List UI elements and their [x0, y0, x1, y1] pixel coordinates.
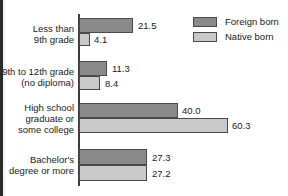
bar-value-foreign-bachelors: 27.3 [152, 152, 171, 163]
category-label-high-school: High school graduate or some college [0, 102, 74, 135]
bar-native-high-school[interactable] [79, 118, 228, 133]
bar-value-native-less-than-9th: 4.1 [94, 34, 107, 45]
legend-label-foreign-born: Foreign born [225, 16, 279, 28]
bar-foreign-bachelors[interactable] [79, 149, 147, 165]
category-label-bachelors: Bachelor's degree or more [0, 154, 74, 176]
bar-foreign-less-than-9th[interactable] [79, 18, 133, 33]
category-label-less-than-9th: Less than 9th grade [0, 23, 74, 45]
legend-swatch-native-born [193, 32, 217, 42]
bar-foreign-high-school[interactable] [79, 103, 178, 118]
chart-container: Less than 9th grade 21.5 4.1 9th to 12th… [0, 0, 288, 196]
bar-value-foreign-9th-to-12th: 11.3 [112, 63, 130, 74]
bar-native-bachelors[interactable] [79, 165, 147, 181]
bar-foreign-9th-to-12th[interactable] [79, 61, 107, 76]
bar-value-native-9th-to-12th: 8.4 [105, 78, 118, 89]
bar-native-9th-to-12th[interactable] [79, 76, 100, 90]
bar-native-less-than-9th[interactable] [79, 33, 90, 46]
bar-value-foreign-less-than-9th: 21.5 [138, 20, 157, 31]
legend-label-native-born: Native born [225, 31, 274, 43]
bar-value-foreign-high-school: 40.0 [182, 105, 201, 116]
bar-value-native-high-school: 60.3 [232, 120, 251, 131]
legend-swatch-foreign-born [193, 17, 217, 27]
bar-value-native-bachelors: 27.2 [152, 168, 171, 179]
plot-area: Less than 9th grade 21.5 4.1 9th to 12th… [0, 0, 288, 196]
category-label-9th-to-12th: 9th to 12th grade (no diploma) [0, 66, 74, 88]
